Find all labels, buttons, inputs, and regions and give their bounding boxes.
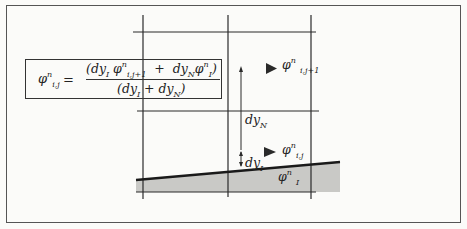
label-phi-interface: φn I bbox=[278, 169, 299, 187]
pointer-triangle-icon-cell bbox=[264, 147, 276, 157]
formula-lhs: φni,j bbox=[38, 71, 60, 89]
formula-numerator: (dyI φni,j+1 + dyNφnI) bbox=[86, 61, 217, 79]
formula-denominator: (dyI + dyN) bbox=[117, 81, 186, 99]
label-dy-N: dyN bbox=[245, 112, 267, 130]
arrow-up-icon bbox=[239, 66, 243, 72]
grid-and-interface-svg bbox=[0, 0, 467, 229]
arrow-up-small-icon bbox=[239, 151, 243, 156]
diagram-canvas: φni,j = (dyI φni,j+1 + dyNφnI) (dyI + dy… bbox=[0, 0, 467, 229]
label-phi-i-j-plus-1: φn i,j+1 bbox=[282, 57, 319, 75]
arrow-down-icon bbox=[239, 162, 243, 167]
label-dy-I: dyI bbox=[245, 155, 263, 173]
formula-equals: = bbox=[63, 72, 74, 87]
fraction-bar bbox=[86, 79, 220, 80]
pointer-triangle-icon-upper bbox=[266, 63, 277, 74]
label-phi-i-j: φni,j bbox=[282, 142, 304, 160]
